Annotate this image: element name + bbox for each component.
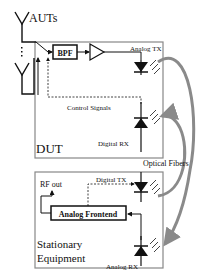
- photodiode-icon: [134, 102, 160, 152]
- photodiode-icon: [134, 236, 160, 266]
- led-icon: [134, 60, 160, 75]
- optical-fibers-label: Optical Fibers: [143, 159, 189, 168]
- amplifier-icon: [90, 44, 104, 60]
- optical-fiber-2: [158, 116, 185, 197]
- analog-tx-label: Analog TX: [130, 45, 162, 53]
- bpf-label: BPF: [57, 49, 72, 58]
- antenna-icon: [15, 58, 34, 94]
- led-icon: [134, 172, 160, 202]
- digital-tx-label: Digital TX: [96, 176, 126, 184]
- analog-frontend-label: Analog Frontend: [59, 210, 118, 219]
- auts-label: AUTs: [29, 11, 58, 25]
- switch-line: [36, 42, 52, 52]
- analog-rx-label: Analog RX: [106, 263, 138, 271]
- rf-out-label: RF out: [40, 180, 63, 189]
- control-signals-line: [48, 58, 141, 104]
- control-signals-label: Control Signals: [67, 104, 111, 112]
- digital-rx-label: Digital RX: [98, 140, 129, 148]
- ellipsis-dots: [21, 47, 23, 57]
- system-diagram: AUTs BPF Analog TX Control Signals Digit…: [0, 0, 206, 276]
- dut-label: DUT: [36, 141, 63, 156]
- stationary-label-1: Stationary: [37, 238, 83, 250]
- stationary-label-2: Equipment: [37, 252, 85, 264]
